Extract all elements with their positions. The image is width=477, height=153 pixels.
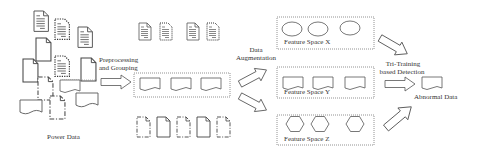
- abnormal-data-label: Abnormal Data: [414, 93, 457, 101]
- feature-space-z-label: Feature Space Z: [284, 135, 329, 143]
- diagram-canvas: [0, 0, 477, 153]
- power-data-documents: [20, 11, 98, 119]
- feature-space-y-label: Feature Space Y: [284, 88, 330, 96]
- detection-arrows: [376, 32, 416, 134]
- preprocess-arrow: [101, 75, 131, 89]
- augment-label-line2: Augmentation: [232, 54, 280, 62]
- feature-space-x-label: Feature Space X: [284, 38, 330, 46]
- wavy-document-group: [134, 73, 230, 97]
- abnormal-data-document: [422, 77, 442, 90]
- preprocess-label-line1: Preprocessing: [99, 56, 138, 64]
- preprocess-label-line2: and Grouping: [99, 64, 138, 72]
- power-data-label: Power Data: [47, 133, 80, 141]
- augment-label-line1: Data: [236, 46, 276, 54]
- text-document-group: [139, 23, 219, 40]
- detection-label-line2: based Detection: [374, 68, 430, 76]
- blank-document-group: [137, 117, 230, 137]
- detection-label-line1: Tri-Training: [380, 60, 426, 68]
- augmentation-arrows: [237, 64, 270, 117]
